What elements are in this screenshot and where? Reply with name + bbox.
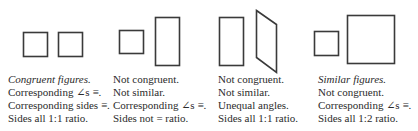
congruent-square-b (59, 33, 83, 57)
panel4-large-square (348, 16, 395, 64)
caption-line: Not congruent. (318, 86, 411, 99)
panel2-square (120, 31, 144, 54)
caption-line: Unequal angles. (218, 99, 298, 112)
caption-line: Sides all 1:1 ratio. (8, 112, 110, 125)
caption-line: Sides all 1:2 ratio. (318, 112, 411, 125)
caption-line: Sides not = ratio. (113, 112, 206, 125)
caption-line: Not similar. (218, 86, 298, 99)
caption-title: Not congruent. (113, 73, 206, 86)
caption-line: Sides all 1:1 ratio. (218, 112, 298, 125)
caption-line: Corresponding ∠s ≡. (8, 86, 110, 99)
caption-title: Congruent figures. (8, 73, 110, 86)
panel3-parallelogram (257, 11, 277, 73)
caption-unequal-angles: Not congruent. Not similar. Unequal angl… (218, 73, 298, 125)
caption-title: Not congruent. (218, 73, 298, 86)
caption-title: Similar figures. (318, 73, 411, 86)
caption-line: Corresponding sides ≡. (8, 99, 110, 112)
caption-line: Not similar. (113, 86, 206, 99)
caption-line: Corresponding ∠s ≡. (318, 99, 411, 112)
congruent-square-a (24, 33, 48, 57)
caption-similar: Similar figures. Not congruent. Correspo… (318, 73, 411, 125)
caption-not-congruent-not-similar: Not congruent. Not similar. Correspondin… (113, 73, 206, 125)
panel2-tall-rectangle (156, 18, 180, 66)
panel4-small-square (315, 32, 339, 56)
caption-congruent: Congruent figures. Corresponding ∠s ≡. C… (8, 73, 110, 125)
caption-line: Corresponding ∠s ≡. (113, 99, 206, 112)
panel3-rectangle (220, 18, 244, 66)
